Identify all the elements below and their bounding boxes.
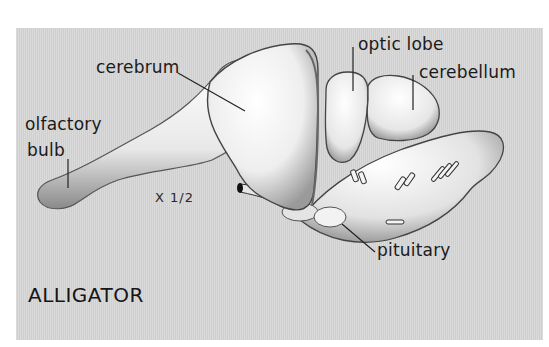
cerebellum-shape (367, 75, 439, 140)
scale-annotation: X 1/2 (155, 191, 194, 204)
label-optic-lobe: optic lobe (358, 36, 444, 53)
figure-title: ALLIGATOR (28, 285, 144, 305)
optic-lobe-shape (325, 72, 368, 162)
label-olfactory: olfactory (25, 116, 102, 133)
label-cerebrum: cerebrum (96, 59, 180, 76)
label-cerebellum: cerebellum (419, 64, 516, 81)
cerebrum-shape (207, 44, 318, 210)
label-pituitary: pituitary (377, 242, 451, 259)
label-bulb: bulb (27, 142, 65, 159)
